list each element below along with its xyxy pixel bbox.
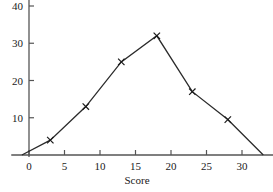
- x-tick-label: 5: [62, 161, 68, 172]
- x-tick-label: 25: [201, 161, 212, 172]
- chart-data-series: [22, 36, 263, 155]
- chart-axes: [11, 0, 273, 157]
- frequency-polygon-chart: 10203040 051015202530 Score: [0, 0, 273, 192]
- x-tick-label: 15: [130, 161, 141, 172]
- x-tick-label: 30: [237, 161, 248, 172]
- x-tick-label: 0: [26, 161, 32, 172]
- chart-tick-marks: [29, 6, 242, 155]
- x-tick-label: 10: [95, 161, 106, 172]
- x-tick-label: 20: [166, 161, 177, 172]
- x-axis-title: Score: [124, 175, 149, 186]
- y-tick-label: 30: [12, 38, 23, 49]
- y-tick-label: 20: [12, 75, 23, 86]
- y-tick-label: 10: [12, 112, 23, 123]
- y-tick-label: 40: [12, 1, 23, 12]
